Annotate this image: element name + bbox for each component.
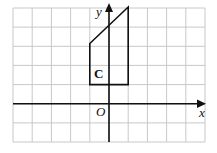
x-axis-label: x [198, 105, 205, 120]
y-axis-label: y [94, 4, 102, 19]
coordinate-diagram: y x O C [0, 0, 217, 153]
y-axis [105, 3, 113, 142]
shape-c-label: C [94, 66, 103, 81]
origin-label: O [96, 104, 106, 119]
